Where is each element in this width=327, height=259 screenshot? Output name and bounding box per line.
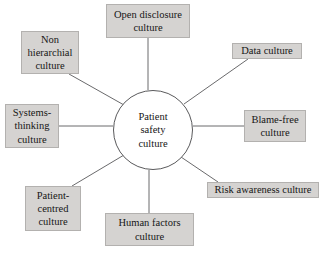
node-patient-centred-culture: Patient- centred culture xyxy=(25,186,81,231)
node-label-line-2: hierarchial xyxy=(28,46,73,59)
node-systems-thinking-culture: Systems- thinking culture xyxy=(5,104,59,148)
spoke-line-risk-awareness-culture xyxy=(181,157,218,182)
hub-label-line-2: safety xyxy=(140,123,165,136)
node-label-line-3: culture xyxy=(35,59,64,72)
node-label-line-1: Open disclosure xyxy=(114,8,182,21)
node-label-line-1: Systems- xyxy=(13,106,52,119)
node-label-line-1: Human factors xyxy=(118,216,180,229)
node-label-line-2: thinking xyxy=(14,119,49,132)
node-blame-free-culture: Blame-free culture xyxy=(244,110,306,142)
hub-patient-safety-culture: Patient safety culture xyxy=(113,90,193,170)
node-data-culture: Data culture xyxy=(232,43,302,59)
node-label-line-1: Data culture xyxy=(241,44,293,57)
patient-safety-culture-diagram: Patient safety culture Open disclosure c… xyxy=(0,0,327,259)
node-risk-awareness-culture: Risk awareness culture xyxy=(207,182,319,198)
spoke-line-patient-centred-culture xyxy=(72,155,124,186)
node-label-line-3: culture xyxy=(17,133,46,146)
node-label-line-1: Blame-free xyxy=(251,113,298,126)
node-label-line-3: culture xyxy=(38,215,67,228)
node-human-factors-culture: Human factors culture xyxy=(105,213,194,246)
spoke-line-data-culture xyxy=(184,59,248,104)
node-label-line-2: culture xyxy=(135,230,164,243)
node-label-line-2: culture xyxy=(260,126,289,139)
node-label-line-1: Risk awareness culture xyxy=(215,183,312,196)
node-non-hierarchial-culture: Non hierarchial culture xyxy=(21,31,79,74)
node-label-line-2: culture xyxy=(133,21,162,34)
node-label-line-1: Patient- xyxy=(37,189,70,202)
node-open-disclosure-culture: Open disclosure culture xyxy=(106,4,190,38)
hub-label-line-1: Patient xyxy=(138,110,167,123)
node-label-line-2: centred xyxy=(38,202,69,215)
spoke-line-non-hierarchial-culture xyxy=(69,74,124,105)
hub-label-line-3: culture xyxy=(138,137,167,150)
node-label-line-1: Non xyxy=(41,33,59,46)
